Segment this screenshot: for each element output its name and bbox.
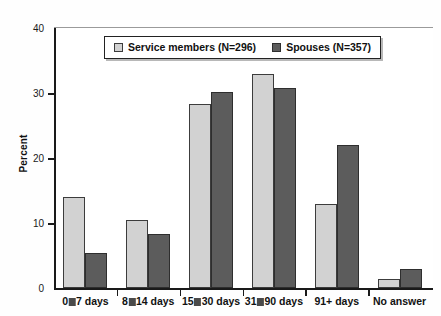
bar bbox=[378, 279, 400, 288]
y-tick-label: 30 bbox=[10, 89, 44, 99]
bar-group bbox=[252, 28, 296, 288]
bar bbox=[337, 145, 359, 288]
bar bbox=[315, 204, 337, 288]
x-tick-mark bbox=[368, 289, 370, 296]
bar-group bbox=[189, 28, 233, 288]
missing-glyph-icon bbox=[128, 298, 135, 306]
chart-legend: Service members (N=296)Spouses (N=357) bbox=[104, 36, 381, 59]
legend-entry: Spouses (N=357) bbox=[272, 41, 371, 53]
x-axis-label: 07 days bbox=[62, 295, 109, 307]
x-axis-label: 91+ days bbox=[314, 295, 359, 307]
y-tick-label: 0 bbox=[10, 284, 44, 294]
bar bbox=[63, 197, 85, 288]
legend-label: Spouses (N=357) bbox=[286, 41, 371, 53]
bar-group bbox=[63, 28, 107, 288]
legend-swatch-icon bbox=[114, 43, 123, 52]
bar bbox=[211, 92, 233, 288]
x-axis-label: 814 days bbox=[122, 295, 174, 307]
bar-group bbox=[378, 28, 422, 288]
missing-glyph-icon bbox=[68, 298, 75, 306]
bar-group bbox=[126, 28, 170, 288]
x-axis-label: 3190 days bbox=[245, 295, 303, 307]
legend-swatch-icon bbox=[272, 43, 281, 52]
bar bbox=[126, 220, 148, 288]
x-tick-mark bbox=[305, 289, 307, 296]
bar bbox=[252, 74, 274, 289]
missing-glyph-icon bbox=[194, 298, 201, 306]
bar bbox=[189, 104, 211, 288]
y-tick-label: 20 bbox=[10, 154, 44, 164]
x-axis-label: No answer bbox=[373, 295, 426, 307]
bar-chart: Percent 010203040 07 days814 days1530 da… bbox=[0, 0, 441, 316]
legend-entry: Service members (N=296) bbox=[114, 41, 256, 53]
x-tick-mark bbox=[180, 289, 182, 296]
bars-layer bbox=[54, 28, 431, 288]
bar bbox=[148, 234, 170, 288]
bar bbox=[85, 253, 107, 288]
x-tick-mark bbox=[243, 289, 245, 296]
bar bbox=[274, 88, 296, 288]
y-tick-label: 10 bbox=[10, 219, 44, 229]
missing-glyph-icon bbox=[257, 298, 264, 306]
x-tick-mark bbox=[117, 289, 119, 296]
bar-group bbox=[315, 28, 359, 288]
x-axis-label: 1530 days bbox=[182, 295, 240, 307]
bar bbox=[400, 269, 422, 289]
legend-label: Service members (N=296) bbox=[128, 41, 256, 53]
y-tick-label: 40 bbox=[10, 24, 44, 34]
